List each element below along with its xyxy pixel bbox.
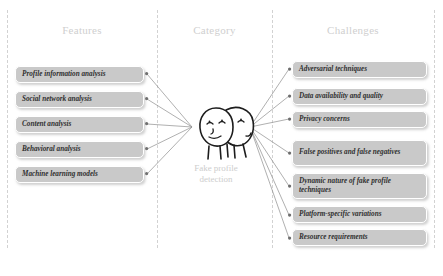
feature-label: Content analysis	[22, 120, 71, 129]
concept-map-diagram: Features Category Challenges	[0, 0, 443, 276]
two-faces-mask-icon	[196, 100, 260, 162]
feature-node-content-analysis[interactable]: Content analysis	[15, 116, 144, 133]
frame-left-border	[7, 10, 8, 248]
challenge-node-platform-specific-variations[interactable]: Platform-specific variations	[292, 206, 427, 223]
feature-label: Machine learning models	[22, 170, 98, 179]
challenge-label: Privacy concerns	[299, 115, 350, 124]
challenge-node-false-positives-and-false-negatives[interactable]: False positives and false negatives	[292, 140, 427, 166]
feature-node-behavioral-analysis[interactable]: Behavioral analysis	[15, 141, 144, 158]
feature-label: Profile information analysis	[22, 70, 105, 79]
column-header-features: Features	[7, 24, 157, 36]
challenge-label: Data availability and quality	[299, 92, 383, 101]
challenge-node-adversarial-techniques[interactable]: Adversarial techniques	[292, 61, 427, 78]
center-caption: Fake profile detection	[178, 163, 254, 185]
challenge-label: False positives and false negatives	[299, 148, 400, 157]
challenge-node-privacy-concerns[interactable]: Privacy concerns	[292, 111, 427, 128]
feature-node-machine-learning-models[interactable]: Machine learning models	[15, 166, 144, 183]
challenge-node-data-availability-and-quality[interactable]: Data availability and quality	[292, 88, 427, 105]
column-header-challenges: Challenges	[272, 24, 434, 36]
challenge-label: Platform-specific variations	[299, 210, 381, 219]
feature-label: Behavioral analysis	[22, 145, 81, 154]
feature-node-social-network-analysis[interactable]: Social network analysis	[15, 91, 144, 108]
column-divider-right	[272, 10, 273, 248]
challenge-label: Resource requirements	[299, 233, 367, 242]
frame-right-border	[434, 10, 435, 248]
column-divider-left	[157, 10, 158, 248]
center-caption-line-2: detection	[178, 174, 254, 185]
column-header-category: Category	[157, 24, 272, 36]
feature-node-profile-information-analysis[interactable]: Profile information analysis	[15, 66, 144, 83]
feature-label: Social network analysis	[22, 95, 92, 104]
challenge-label: Dynamic nature of fake profile technique…	[299, 177, 420, 195]
center-caption-line-1: Fake profile	[178, 163, 254, 174]
challenge-node-dynamic-nature-of-fake-profile-techniques[interactable]: Dynamic nature of fake profile technique…	[292, 173, 427, 199]
challenge-node-resource-requirements[interactable]: Resource requirements	[292, 229, 427, 246]
challenge-label: Adversarial techniques	[299, 65, 367, 74]
